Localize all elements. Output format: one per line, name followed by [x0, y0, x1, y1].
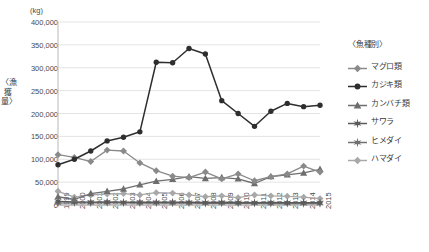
series-1: [55, 46, 322, 168]
legend-label: サワラ: [371, 115, 394, 126]
data-point-marker: [137, 129, 142, 134]
data-point-marker: [202, 169, 209, 176]
data-point-marker: [218, 175, 225, 182]
fishery-catch-line-chart: (kg) 〈漁獲量〉 400,000350,000300,000250,0002…: [0, 0, 429, 252]
data-point-marker: [235, 170, 242, 177]
data-point-marker: [136, 191, 143, 198]
data-point-marker: [55, 151, 62, 158]
legend-item-0[interactable]: マグロ類: [348, 56, 428, 75]
data-point-marker: [169, 190, 176, 197]
legend-item-1[interactable]: カジキ類: [348, 75, 428, 94]
legend-item-3[interactable]: サワラ: [348, 112, 428, 131]
data-point-marker: [104, 138, 109, 143]
data-point-marker: [154, 60, 159, 65]
data-point-marker: [354, 65, 361, 72]
legend-label: マグロ類: [371, 60, 402, 71]
triangle-marker-icon: [348, 97, 367, 108]
data-point-marker: [186, 191, 193, 198]
legend-item-5[interactable]: ハマダイ: [348, 149, 428, 168]
data-point-marker: [88, 148, 93, 153]
star-marker-icon: [348, 134, 367, 145]
legend-label: カジキ類: [371, 78, 402, 89]
data-point-marker: [355, 84, 361, 90]
data-point-marker: [219, 98, 224, 103]
legend-label: カンバチ類: [371, 97, 410, 108]
data-point-marker: [153, 167, 160, 174]
data-point-marker: [186, 46, 191, 51]
star-marker-icon: [348, 115, 367, 126]
circle-marker-icon: [348, 78, 367, 89]
data-point-marker: [72, 157, 77, 162]
data-point-marker: [203, 51, 208, 56]
legend-item-4[interactable]: ヒメダイ: [348, 130, 428, 149]
data-point-marker: [301, 104, 306, 109]
data-point-marker: [170, 60, 175, 65]
data-point-marker: [235, 111, 240, 116]
data-point-marker: [54, 193, 61, 199]
data-point-marker: [285, 101, 290, 106]
data-point-marker: [354, 157, 361, 164]
legend-entries: マグロ類カジキ類カンバチ類サワラヒメダイハマダイ: [348, 56, 428, 167]
data-point-marker: [268, 109, 273, 114]
data-point-marker: [251, 191, 258, 198]
diamond-marker-icon: [348, 60, 367, 71]
series-3: [54, 197, 324, 207]
legend-label: ハマダイ: [371, 152, 402, 163]
legend: 〈魚種別〉 マグロ類カジキ類カンバチ類サワラヒメダイハマダイ: [348, 38, 428, 167]
data-point-marker: [317, 103, 322, 108]
legend-title: 〈魚種別〉: [348, 38, 428, 49]
legend-label: ヒメダイ: [371, 134, 402, 145]
data-point-marker: [186, 174, 193, 181]
data-point-marker: [300, 163, 307, 170]
legend-item-2[interactable]: カンバチ類: [348, 93, 428, 112]
series-0: [55, 147, 324, 185]
data-point-marker: [153, 189, 160, 196]
data-point-marker: [55, 162, 60, 167]
data-point-marker: [252, 124, 257, 129]
data-point-marker: [121, 135, 126, 140]
diamond-marker-icon: [348, 152, 367, 163]
